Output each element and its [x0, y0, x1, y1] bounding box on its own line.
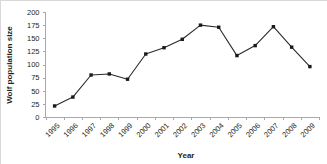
y-axis-title: Wolf population size [5, 26, 14, 104]
data-point-marker [108, 72, 111, 75]
y-tick-label: 75 [31, 73, 39, 82]
chart-background [1, 1, 327, 164]
data-point-marker [290, 45, 293, 48]
y-tick-label: 175 [27, 21, 40, 30]
data-point-marker [308, 65, 311, 68]
data-point-marker [253, 44, 256, 47]
data-point-marker [272, 25, 275, 28]
data-point-marker [126, 78, 129, 81]
data-point-marker [53, 104, 56, 107]
chart-figure: 0255075100125150175200 19951996199719981… [0, 0, 327, 164]
wolf-population-line-chart: 0255075100125150175200 19951996199719981… [1, 1, 327, 164]
y-tick-label: 200 [27, 8, 40, 17]
y-tick-label: 50 [31, 87, 39, 96]
data-point-marker [181, 38, 184, 41]
y-tick-label: 25 [31, 100, 39, 109]
data-point-marker [162, 46, 165, 49]
y-tick-label: 0 [35, 113, 39, 122]
y-tick-label: 150 [27, 34, 40, 43]
data-point-marker [71, 95, 74, 98]
data-point-marker [199, 23, 202, 26]
data-point-marker [144, 52, 147, 55]
y-tick-label: 100 [27, 60, 40, 69]
data-point-marker [235, 54, 238, 57]
y-tick-label: 125 [27, 47, 40, 56]
data-point-marker [217, 26, 220, 29]
x-axis-title: Year [178, 151, 195, 160]
data-point-marker [89, 73, 92, 76]
